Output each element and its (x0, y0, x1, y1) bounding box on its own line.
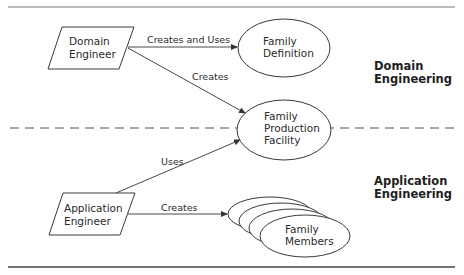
domain-engineer-node: Domain Engineer (48, 27, 134, 69)
application-engineer-shape (49, 193, 135, 235)
region-application-engineering-line1: Application (374, 174, 447, 188)
region-domain-engineering-line2: Engineering (374, 72, 452, 86)
application-engineer-node: Application Engineer (49, 193, 135, 235)
family-definition-label-line1: Family (263, 35, 297, 47)
edge-label-uses: Uses (161, 156, 184, 167)
family-definition-label-line2: Definition (263, 47, 314, 59)
family-definition-node: Family Definition (238, 19, 330, 77)
facility-label-line3: Facility (264, 134, 300, 146)
region-application-engineering-line2: Engineering (374, 187, 452, 201)
facility-label-line2: Production (264, 122, 320, 134)
family-members-label-line2: Members (285, 235, 334, 247)
region-domain-engineering-line1: Domain (374, 59, 423, 73)
edge-label-creates-and-uses: Creates and Uses (147, 34, 230, 45)
application-engineer-label-line2: Engineer (64, 215, 111, 227)
domain-engineer-label-line1: Domain (69, 35, 110, 47)
facility-label-line1: Family (264, 110, 298, 122)
family-members-node: Family Members (228, 197, 350, 257)
domain-engineer-label-line2: Engineer (69, 48, 116, 60)
application-engineer-label-line1: Application (64, 202, 123, 214)
edge-label-creates-members: Creates (161, 202, 198, 213)
diagram-svg: Creates and Uses Creates Uses Creates Do… (0, 0, 464, 275)
edge-label-creates-facility: Creates (192, 71, 229, 82)
family-members-label-line1: Family (285, 223, 319, 235)
family-production-facility-node: Family Production Facility (237, 100, 331, 160)
diagram-canvas: Creates and Uses Creates Uses Creates Do… (0, 0, 464, 275)
